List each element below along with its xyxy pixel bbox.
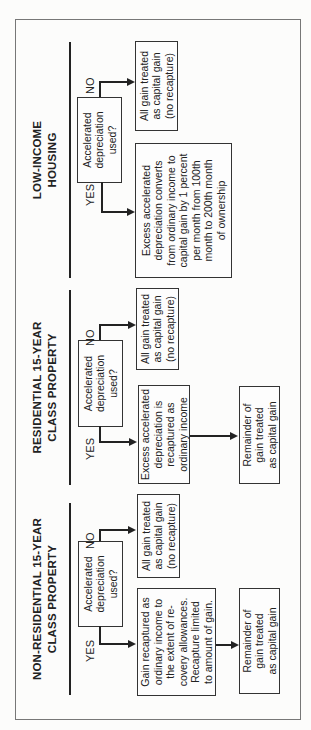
yes-label-residential: YES (84, 438, 96, 460)
heading-low-income: LOW-INCOME HOUSING (30, 42, 60, 278)
heading-rule-residential (69, 290, 71, 485)
yes-connector (101, 182, 103, 213)
no-label-non-residential: NO (84, 533, 96, 550)
arrow-icon (127, 208, 135, 216)
arrow-icon (230, 432, 238, 440)
yes-label-non-residential: YES (84, 640, 96, 662)
decision-box-low-income: Accelerated depreciation used? (77, 97, 122, 183)
flowchart-diagram: NON-RESIDENTIAL 15-YEAR CLASS PROPERTY A… (0, 0, 311, 730)
arrow-icon (127, 78, 135, 86)
decision-box-non-residential: Accelerated depreciation used? (78, 541, 123, 627)
yes-result-box-residential: Excess accelerated depreciation is recap… (138, 385, 190, 484)
remainder-text: Remainder of gain treated as capital gai… (241, 607, 279, 674)
no-result-text: All gain treated as capital gain (no rec… (138, 51, 176, 121)
no-connector (99, 81, 128, 83)
no-result-box-non-residential: All gain treated as capital gain (no rec… (137, 494, 180, 578)
yes-result-text: Excess accelerated depreciation converts… (140, 154, 228, 268)
no-connector (99, 324, 129, 326)
heading-non-residential: NON-RESIDENTIAL 15-YEAR CLASS PROPERTY (30, 488, 60, 710)
yes-connector (99, 441, 130, 443)
decision-box-residential: Accelerated depreciation used? (78, 340, 123, 427)
yes-label-low-income: YES (84, 184, 96, 206)
no-connector (99, 529, 129, 531)
no-label-residential: NO (84, 330, 96, 347)
no-result-box-residential: All gain treated as capital gain (no rec… (136, 288, 179, 370)
remainder-box-residential: Remainder of gain treated as capital gai… (239, 386, 280, 484)
decision-text: Accelerated depreciation used? (82, 555, 120, 612)
no-result-text: All gain treated as capital gain (no rec… (140, 501, 178, 571)
no-connector (99, 530, 101, 541)
no-connector (99, 324, 101, 340)
yes-result-box-low-income: Excess accelerated depreciation converts… (135, 143, 232, 278)
arrow-icon (128, 526, 136, 534)
arrow-icon (128, 640, 136, 648)
decision-text: Accelerated depreciation used? (82, 355, 120, 412)
yes-result-text: Gain recaptured as ordinary income to th… (139, 597, 214, 686)
yes-result-box-non-residential: Gain recaptured as ordinary income to th… (137, 588, 216, 696)
yes-connector (101, 211, 128, 213)
yes-connector (99, 643, 129, 645)
remainder-connector (216, 644, 232, 646)
arrow-icon (128, 321, 136, 329)
decision-text: Accelerated depreciation used? (81, 111, 119, 168)
remainder-box-non-residential: Remainder of gain treated as capital gai… (239, 588, 280, 694)
arrow-icon (129, 438, 137, 446)
no-result-text: All gain treated as capital gain (no rec… (139, 294, 177, 364)
heading-residential: RESIDENTIAL 15-YEAR CLASS PROPERTY (30, 290, 60, 485)
remainder-text: Remainder of gain treated as capital gai… (241, 401, 279, 468)
arrow-icon (231, 641, 239, 649)
heading-rule-non-residential (69, 503, 71, 695)
heading-rule-low-income (69, 42, 71, 278)
no-label-low-income: NO (84, 78, 96, 95)
yes-result-text: Excess accelerated depreciation is recap… (139, 389, 189, 480)
no-result-box-low-income: All gain treated as capital gain (no rec… (135, 41, 178, 131)
no-connector (99, 81, 101, 97)
remainder-connector (190, 435, 231, 437)
